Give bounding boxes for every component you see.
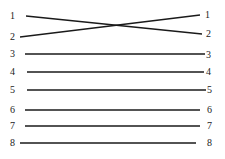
wiring-diagram: 12345678 12345678	[0, 0, 225, 159]
right-pin-label-1: 1	[205, 9, 210, 20]
left-pin-label-8: 8	[10, 137, 15, 148]
right-pin-label-5: 5	[207, 84, 212, 95]
left-pin-label-4: 4	[10, 66, 15, 77]
right-pin-label-4: 4	[206, 66, 211, 77]
left-pin-label-3: 3	[10, 48, 15, 59]
left-pin-label-2: 2	[10, 31, 15, 42]
right-pin-label-8: 8	[207, 137, 212, 148]
wire-group	[20, 15, 206, 143]
left-pin-label-5: 5	[10, 84, 15, 95]
right-pin-label-7: 7	[207, 120, 212, 131]
right-pin-label-3: 3	[206, 49, 211, 60]
right-pin-label-2: 2	[206, 28, 211, 39]
left-pin-labels: 12345678	[10, 10, 15, 148]
left-pin-label-6: 6	[10, 104, 15, 115]
right-pin-label-6: 6	[207, 104, 212, 115]
right-pin-labels: 12345678	[205, 9, 212, 148]
left-pin-label-1: 1	[10, 10, 15, 21]
left-pin-label-7: 7	[10, 120, 15, 131]
